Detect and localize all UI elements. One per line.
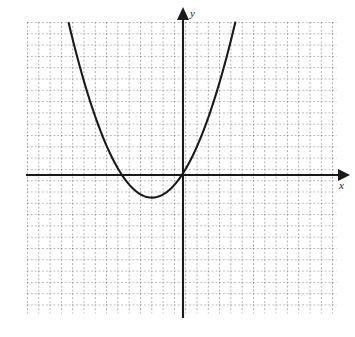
y-axis-arrowhead bbox=[177, 7, 189, 20]
x-axis-label: x bbox=[339, 180, 344, 191]
grid-area bbox=[27, 22, 337, 314]
y-axis-label: y bbox=[190, 8, 195, 19]
coordinate-plane bbox=[0, 0, 355, 337]
graph-figure: y x bbox=[0, 0, 355, 337]
